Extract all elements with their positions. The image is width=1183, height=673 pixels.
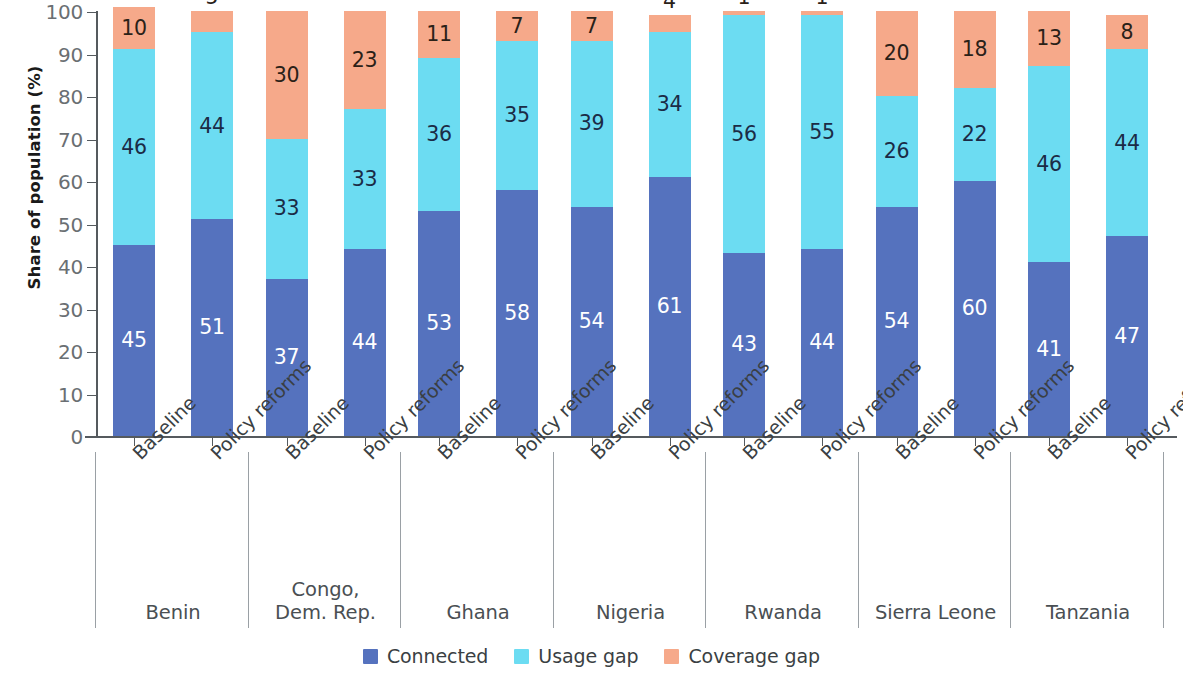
y-tick-label: 50	[58, 213, 83, 237]
segment-usage-gap[interactable]: 39	[571, 41, 613, 207]
segment-value-label: 39	[579, 113, 605, 134]
segment-connected[interactable]: 51	[191, 219, 233, 436]
group-separator	[553, 452, 554, 628]
group-label-nigeria: Nigeria	[596, 601, 665, 624]
segment-usage-gap[interactable]: 35	[496, 41, 538, 190]
segment-connected[interactable]: 60	[954, 181, 996, 436]
legend-label: Usage gap	[538, 645, 638, 667]
bar-column[interactable]: 43461	[649, 15, 691, 436]
segment-value-label: 33	[274, 198, 300, 219]
group-label-rwanda: Rwanda	[744, 601, 822, 624]
segment-usage-gap[interactable]: 46	[1028, 66, 1070, 262]
y-axis-title: Share of population (%)	[25, 48, 44, 308]
group-separator	[1163, 452, 1164, 628]
segment-value-label: 51	[199, 317, 225, 338]
bar-column[interactable]: 73558	[496, 11, 538, 436]
legend-label: Connected	[387, 645, 488, 667]
y-tick-mark	[87, 437, 96, 438]
segment-usage-gap[interactable]: 56	[723, 15, 765, 253]
bar-column[interactable]: 233344	[344, 11, 386, 436]
legend-item[interactable]: Connected	[363, 645, 488, 667]
y-tick-mark	[87, 225, 96, 226]
segment-value-label: 7	[585, 16, 598, 37]
segment-value-label: 8	[1121, 22, 1134, 43]
segment-value-label: 55	[809, 122, 835, 143]
segment-coverage-gap[interactable]: 18	[954, 11, 996, 88]
y-tick-mark	[87, 267, 96, 268]
segment-value-label: 61	[657, 296, 683, 317]
y-tick-mark	[87, 395, 96, 396]
segment-coverage-gap[interactable]: 4	[649, 15, 691, 32]
segment-value-label: 54	[884, 311, 910, 332]
legend-swatch-icon	[664, 649, 679, 664]
segment-coverage-gap[interactable]: 23	[344, 11, 386, 109]
bar-column[interactable]: 54451	[191, 11, 233, 436]
segment-coverage-gap[interactable]: 7	[571, 11, 613, 41]
segment-coverage-gap[interactable]: 8	[1106, 15, 1148, 49]
segment-value-label: 1	[738, 0, 751, 8]
segment-coverage-gap[interactable]: 5	[191, 11, 233, 32]
segment-connected[interactable]: 45	[113, 245, 155, 436]
segment-value-label: 44	[809, 332, 835, 353]
bar-column[interactable]: 182260	[954, 11, 996, 436]
segment-value-label: 35	[504, 105, 530, 126]
legend-swatch-icon	[514, 649, 529, 664]
y-tick-mark	[87, 55, 96, 56]
group-label-ghana: Ghana	[446, 601, 509, 624]
group-separator	[248, 452, 249, 628]
y-tick-mark	[87, 12, 96, 13]
segment-usage-gap[interactable]: 33	[344, 109, 386, 249]
segment-usage-gap[interactable]: 55	[801, 15, 843, 249]
segment-usage-gap[interactable]: 44	[1106, 49, 1148, 236]
segment-value-label: 1	[816, 0, 829, 8]
group-separator	[400, 452, 401, 628]
segment-value-label: 56	[731, 124, 757, 145]
group-separator	[95, 452, 96, 628]
y-tick-mark	[87, 310, 96, 311]
y-tick-mark	[87, 182, 96, 183]
group-label-sierraleone: Sierra Leone	[875, 601, 996, 624]
segment-coverage-gap[interactable]: 20	[876, 11, 918, 96]
segment-coverage-gap[interactable]: 13	[1028, 11, 1070, 66]
segment-value-label: 44	[199, 116, 225, 137]
segment-value-label: 58	[504, 303, 530, 324]
segment-usage-gap[interactable]: 44	[191, 32, 233, 219]
segment-value-label: 20	[884, 43, 910, 64]
segment-value-label: 60	[962, 298, 988, 319]
y-tick-label: 40	[58, 255, 83, 279]
group-separator	[858, 452, 859, 628]
segment-value-label: 44	[352, 332, 378, 353]
segment-usage-gap[interactable]: 34	[649, 32, 691, 177]
y-tick-label: 10	[58, 383, 83, 407]
bar-column[interactable]: 84447	[1106, 15, 1148, 436]
bar-column[interactable]: 15544	[801, 11, 843, 436]
segment-usage-gap[interactable]: 36	[418, 58, 460, 211]
segment-connected[interactable]: 61	[649, 177, 691, 436]
segment-value-label: 46	[121, 137, 147, 158]
segment-connected[interactable]: 58	[496, 190, 538, 437]
y-tick-label: 60	[58, 170, 83, 194]
chart-legend: ConnectedUsage gapCoverage gap	[0, 645, 1183, 667]
legend-item[interactable]: Coverage gap	[664, 645, 820, 667]
segment-coverage-gap[interactable]: 10	[113, 7, 155, 50]
group-label-congodemrep: Congo, Dem. Rep.	[275, 578, 376, 624]
bar-column[interactable]: 104645	[113, 7, 155, 436]
segment-usage-gap[interactable]: 22	[954, 88, 996, 182]
y-tick-label: 0	[70, 425, 83, 449]
y-tick-label: 20	[58, 340, 83, 364]
legend-item[interactable]: Usage gap	[514, 645, 638, 667]
segment-value-label: 43	[731, 334, 757, 355]
segment-value-label: 46	[1036, 154, 1062, 175]
segment-coverage-gap[interactable]: 11	[418, 11, 460, 58]
segment-value-label: 11	[426, 24, 452, 45]
segment-coverage-gap[interactable]: 7	[496, 11, 538, 41]
group-separator	[1010, 452, 1011, 628]
y-axis-line	[96, 11, 98, 437]
segment-usage-gap[interactable]: 46	[113, 49, 155, 245]
y-tick-label: 100	[45, 0, 83, 24]
segment-value-label: 5	[206, 0, 219, 8]
segment-value-label: 41	[1036, 339, 1062, 360]
segment-usage-gap[interactable]: 26	[876, 96, 918, 207]
segment-usage-gap[interactable]: 33	[266, 139, 308, 279]
segment-coverage-gap[interactable]: 30	[266, 11, 308, 139]
